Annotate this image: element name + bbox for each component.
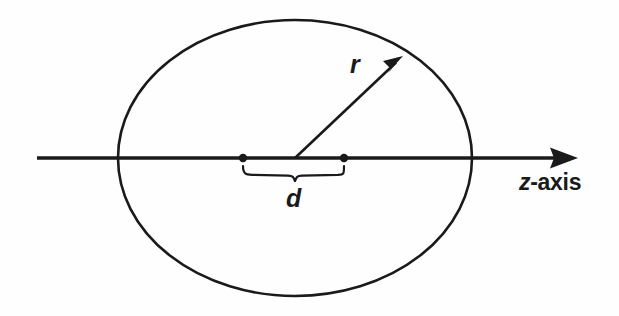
distance-label: d [286, 186, 301, 211]
z-axis-suffix: -axis [530, 169, 581, 195]
z-axis-arrowhead [550, 148, 578, 169]
distance-brace [243, 166, 344, 181]
z-axis-label: z-axis [519, 171, 581, 194]
diagram-canvas: r d z-axis [0, 0, 619, 316]
radius-label: r [350, 52, 360, 77]
left-axis-point [239, 154, 247, 162]
right-axis-point [340, 154, 348, 162]
z-axis-variable: z [519, 169, 530, 195]
radius-line [295, 63, 396, 159]
diagram-vector-layer [0, 0, 619, 316]
